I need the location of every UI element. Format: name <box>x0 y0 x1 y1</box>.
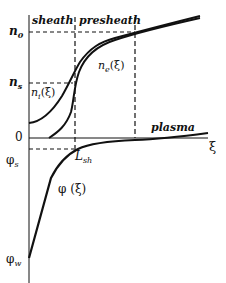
ni-argument: (ξ) <box>41 86 56 99</box>
sheath-diagram <box>0 0 226 283</box>
ns-label: ns <box>9 76 22 88</box>
zero-label: 0 <box>15 131 23 143</box>
presheath-label: presheath <box>79 15 141 26</box>
electron-density-label: ne(ξ) <box>98 60 124 71</box>
potential-curve <box>29 133 208 258</box>
phi-s-label: φs <box>6 154 19 166</box>
sheath-length-label: Lsh <box>75 150 92 162</box>
sheath-label: sheath <box>32 15 73 26</box>
ni-subscript: i <box>38 92 41 101</box>
potential-label: φ (ξ) <box>58 183 86 195</box>
ne-subscript: e <box>105 65 110 74</box>
phi-s-subscript: s <box>14 160 18 169</box>
n0-label: n0 <box>9 25 23 37</box>
l-subscript: sh <box>83 156 92 165</box>
ne-argument: (ξ) <box>110 59 125 72</box>
n0-subscript: 0 <box>18 30 24 40</box>
ns-symbol: n <box>9 75 18 89</box>
plasma-label: plasma <box>151 122 195 133</box>
phi-w-label: φw <box>6 253 21 265</box>
phi-w-subscript: w <box>14 259 21 268</box>
n0-symbol: n <box>9 24 18 38</box>
l-symbol: L <box>75 149 83 163</box>
xi-axis-label: ξ <box>209 140 216 153</box>
ns-subscript: s <box>18 81 23 91</box>
ion-density-label: ni(ξ) <box>31 87 55 98</box>
